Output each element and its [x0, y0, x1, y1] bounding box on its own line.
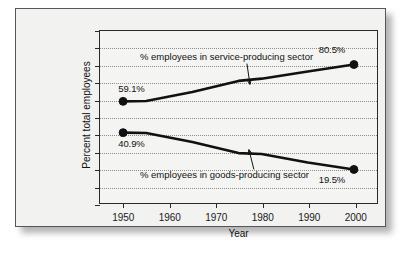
x-tick-mark: [356, 203, 357, 208]
series-endpoint-marker: [350, 166, 358, 174]
y-tick-mark: [95, 205, 100, 206]
x-tick-mark: [123, 203, 124, 208]
series-endpoint-marker: [119, 97, 127, 105]
x-tick-mark: [263, 203, 264, 208]
plot-area: 0.0%10.0%20.0%30.0%40.0%50.0%60.0%70.0%8…: [99, 30, 378, 204]
value-label: 59.1%: [118, 83, 144, 94]
x-tick-label: 1970: [205, 212, 227, 223]
annotation-label: % employees in service-producing sector: [140, 51, 313, 62]
annotation-label: % employees in goods-producing sector: [140, 169, 309, 180]
series-endpoint-marker: [350, 61, 358, 69]
value-label: 19.5%: [319, 174, 345, 185]
value-label: 80.5%: [319, 44, 345, 55]
series-endpoint-marker: [119, 129, 127, 137]
series-line-service: [123, 65, 354, 102]
series-line-goods: [123, 133, 354, 170]
x-tick-label: 1950: [112, 212, 134, 223]
x-tick-label: 1990: [298, 212, 320, 223]
x-tick-mark: [309, 203, 310, 208]
figure-panel: 0.0%10.0%20.0%30.0%40.0%50.0%60.0%70.0%8…: [15, 8, 386, 227]
x-tick-label: 1980: [252, 212, 274, 223]
y-axis-title: Percent total employees: [81, 62, 92, 169]
figure-root: 0.0%10.0%20.0%30.0%40.0%50.0%60.0%70.0%8…: [0, 0, 405, 253]
x-tick-mark: [216, 203, 217, 208]
x-axis-title: Year: [228, 228, 248, 239]
value-label: 40.9%: [118, 138, 144, 149]
x-tick-label: 1960: [159, 212, 181, 223]
x-tick-label: 2000: [345, 212, 367, 223]
plot-inner: 0.0%10.0%20.0%30.0%40.0%50.0%60.0%70.0%8…: [100, 31, 377, 203]
x-tick-mark: [170, 203, 171, 208]
